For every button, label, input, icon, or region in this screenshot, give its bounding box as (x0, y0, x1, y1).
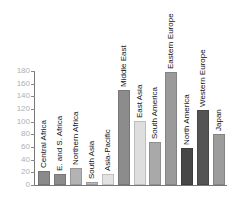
bar-central-africa (38, 171, 50, 185)
y-tick-label: 180 (17, 67, 30, 75)
y-tick-mark (31, 71, 35, 72)
bar-middle-east (118, 90, 130, 185)
y-tick-mark (31, 172, 35, 173)
bar-south-america (149, 142, 161, 185)
bar-label: Japan (214, 110, 223, 132)
bar-east-asia (134, 121, 146, 185)
y-tick-mark (31, 122, 35, 123)
bar-northern-africa (70, 168, 82, 185)
bar-asia-pacific (102, 174, 114, 185)
y-tick-label: 160 (17, 80, 30, 88)
bar-label: Northern Africa (71, 112, 80, 165)
bar-label: Central Africa (39, 120, 48, 168)
bar-label: Asia-Pacific (103, 129, 112, 171)
bar-e-and-s-africa (54, 174, 66, 185)
y-axis-line (34, 71, 35, 186)
y-tick-mark (31, 134, 35, 135)
y-tick-label: 140 (17, 92, 30, 100)
y-tick-mark (31, 160, 35, 161)
x-axis-line (34, 185, 227, 186)
y-tick-label: 80 (21, 130, 30, 138)
y-tick-label: 20 (21, 168, 30, 176)
bar-label: E. and S. Africa (55, 116, 64, 171)
bar-label: Eastern Europe (166, 14, 175, 70)
bar-label: South Asia (87, 141, 96, 179)
y-tick-mark (31, 185, 35, 186)
y-tick-mark (31, 109, 35, 110)
bar-label: East Asia (135, 85, 144, 118)
y-tick-label: 60 (21, 143, 30, 151)
bar-eastern-europe (165, 72, 177, 185)
y-tick-label: 40 (21, 156, 30, 164)
bar-japan (213, 134, 225, 185)
y-tick-label: 0 (26, 181, 30, 189)
bar-western-europe (197, 110, 209, 185)
bar-chart: 020406080100120140160180 Central AfricaE… (0, 0, 238, 202)
bar-label: North America (182, 95, 191, 146)
y-tick-mark (31, 147, 35, 148)
bar-north-america (181, 148, 193, 185)
y-tick-label: 100 (17, 118, 30, 126)
y-tick-mark (31, 96, 35, 97)
bar-label: South America (150, 87, 159, 139)
bar-label: Middle East (119, 45, 128, 87)
bar-label: Western Europe (198, 49, 207, 107)
bar-south-asia (86, 182, 98, 185)
y-tick-mark (31, 84, 35, 85)
y-tick-label: 120 (17, 105, 30, 113)
